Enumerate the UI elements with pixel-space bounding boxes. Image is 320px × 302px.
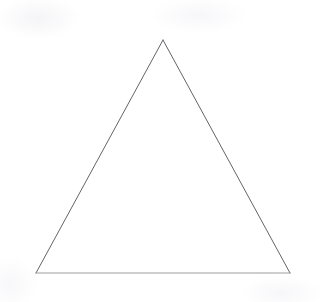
figure-canvas: [0, 0, 320, 302]
triangle-right-side: [163, 40, 290, 273]
triangle-vertices: [34, 38, 292, 275]
triangle-figure: [0, 0, 320, 302]
triangle-strokes: [36, 40, 290, 273]
triangle-left-side: [36, 40, 163, 273]
